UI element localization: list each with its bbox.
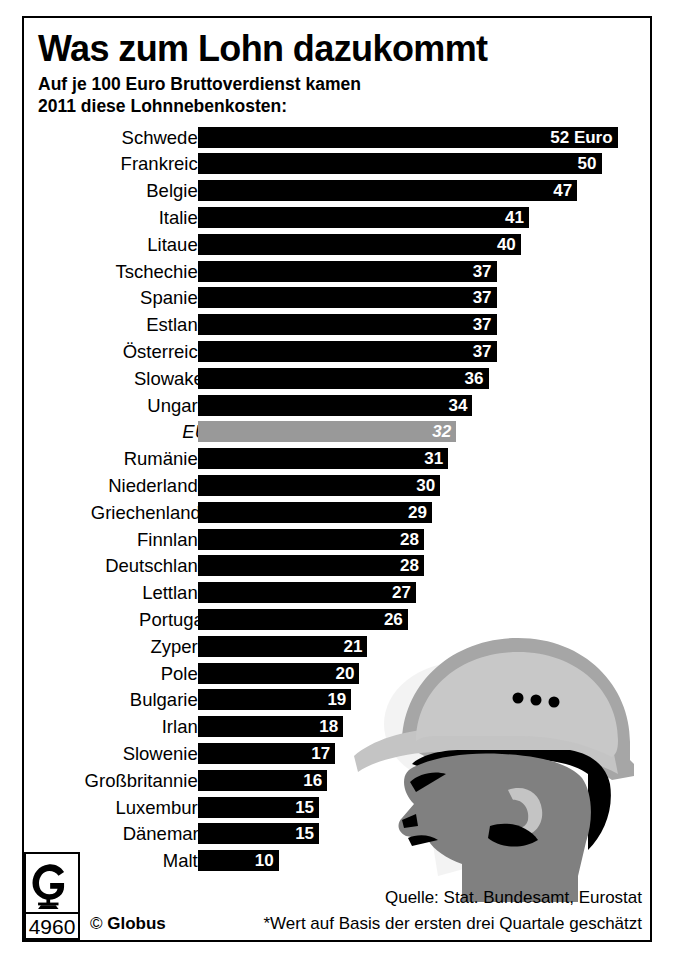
chart-bar: 41 bbox=[198, 207, 529, 228]
chart-bar-value: 29 bbox=[408, 502, 427, 523]
chart-row: Finnland28 bbox=[24, 528, 650, 551]
subtitle: Auf je 100 Euro Bruttoverdienst kamen 20… bbox=[38, 74, 650, 118]
chart-row-label: Deutschland bbox=[105, 554, 208, 577]
chart-bar: 18 bbox=[198, 716, 343, 737]
chart-bar-value: 37 bbox=[473, 261, 492, 282]
copyright-name: Globus bbox=[107, 914, 166, 933]
chart-bar: 37 bbox=[198, 287, 497, 308]
chart-bar-value: 50 bbox=[578, 153, 597, 174]
chart-bar: 21 bbox=[198, 636, 367, 657]
chart-row-label: Großbritannien bbox=[85, 769, 208, 792]
chart-row: Griechenland*29 bbox=[24, 501, 650, 524]
chart-row-label: Schweden bbox=[122, 126, 208, 149]
chart-row: Österreich37 bbox=[24, 340, 650, 363]
chart-bar-value: 31 bbox=[424, 448, 443, 469]
chart-bar-value: 18 bbox=[319, 716, 338, 737]
chart-row: Ungarn34 bbox=[24, 394, 650, 417]
chart-bar: 28 bbox=[198, 529, 424, 550]
chart-bar: 29 bbox=[198, 502, 432, 523]
chart-bar: 50 bbox=[198, 153, 602, 174]
chart-row: Slowenien17 bbox=[24, 742, 650, 765]
chart-row: Estland37 bbox=[24, 313, 650, 336]
chart-bar: 19 bbox=[198, 689, 351, 710]
chart-bar-value: 21 bbox=[344, 636, 363, 657]
globus-g-icon bbox=[26, 854, 78, 914]
footnote-text: *Wert auf Basis der ersten drei Quartale… bbox=[263, 914, 642, 934]
infographic-card: Was zum Lohn dazukommt Auf je 100 Euro B… bbox=[22, 16, 652, 942]
copyright-symbol: © bbox=[90, 914, 103, 933]
chart-bar-value: 37 bbox=[473, 341, 492, 362]
chart-row: Lettland27 bbox=[24, 581, 650, 604]
chart-bar-value: 17 bbox=[311, 743, 330, 764]
chart-row: Litauen40 bbox=[24, 233, 650, 256]
chart-bar: 34 bbox=[198, 395, 472, 416]
chart-row-label: Frankreich bbox=[121, 152, 208, 175]
chart-row: Frankreich50 bbox=[24, 152, 650, 175]
chart-row: Tschechien37 bbox=[24, 260, 650, 283]
chart-bar-value: 28 bbox=[400, 555, 419, 576]
header: Was zum Lohn dazukommt Auf je 100 Euro B… bbox=[24, 18, 650, 118]
chart-row: Bulgarien19 bbox=[24, 688, 650, 711]
chart-bar-value: 20 bbox=[335, 663, 354, 684]
chart-bar-value: 28 bbox=[400, 529, 419, 550]
chart-row: Schweden52 Euro bbox=[24, 126, 650, 149]
chart-row: Portugal26 bbox=[24, 608, 650, 631]
chart-bar-value: 32 bbox=[432, 421, 451, 442]
chart-row: Großbritannien16 bbox=[24, 769, 650, 792]
chart-bar: 27 bbox=[198, 582, 416, 603]
chart-row: Rumänien31 bbox=[24, 447, 650, 470]
chart-bar: 37 bbox=[198, 261, 497, 282]
chart-row: EU32 bbox=[24, 420, 650, 443]
chart-bar: 36 bbox=[198, 368, 489, 389]
chart-bar-value: 37 bbox=[473, 314, 492, 335]
chart-row: Zypern21 bbox=[24, 635, 650, 658]
chart-bar: 37 bbox=[198, 314, 497, 335]
chart-row: Belgien47 bbox=[24, 179, 650, 202]
chart-bar: 32 bbox=[198, 421, 456, 442]
chart-row: Niederlande30 bbox=[24, 474, 650, 497]
chart-bar: 15 bbox=[198, 797, 319, 818]
chart-row: Irland18 bbox=[24, 715, 650, 738]
footer: 4960 © Globus Quelle: Stat. Bundesamt, E… bbox=[24, 836, 650, 940]
source-text: Quelle: Stat. Bundesamt, Eurostat bbox=[385, 888, 642, 908]
chart-row-label: Slowakei bbox=[134, 367, 208, 390]
globus-logo-number: 4960 bbox=[26, 912, 78, 938]
globus-logo: 4960 bbox=[24, 852, 80, 940]
chart-row-label: Luxemburg bbox=[115, 796, 208, 819]
chart-row-label: Österreich bbox=[123, 340, 208, 363]
chart-bar: 26 bbox=[198, 609, 408, 630]
chart-bar-value: 40 bbox=[497, 234, 516, 255]
chart-bar-value: 16 bbox=[303, 770, 322, 791]
chart-row-label: Tschechien bbox=[115, 260, 208, 283]
chart-row: Deutschland28 bbox=[24, 554, 650, 577]
chart-bar: 40 bbox=[198, 234, 521, 255]
chart-bar: 28 bbox=[198, 555, 424, 576]
chart-row-label: Rumänien bbox=[124, 447, 208, 470]
chart-bar-value: 34 bbox=[448, 395, 467, 416]
bar-chart: Schweden52 EuroFrankreich50Belgien47Ital… bbox=[24, 126, 650, 878]
chart-row-label: Slowenien bbox=[123, 742, 208, 765]
copyright: © Globus bbox=[90, 914, 166, 934]
chart-bar-value: 47 bbox=[553, 180, 572, 201]
subtitle-line-2: 2011 diese Lohnnebenkosten: bbox=[38, 96, 650, 118]
chart-bar: 47 bbox=[198, 180, 577, 201]
page-title: Was zum Lohn dazukommt bbox=[38, 30, 650, 68]
chart-bar-value: 30 bbox=[416, 475, 435, 496]
chart-bar-value: 15 bbox=[295, 797, 314, 818]
chart-bar: 37 bbox=[198, 341, 497, 362]
chart-row-label: Griechenland* bbox=[91, 501, 208, 524]
chart-row-label: Niederlande bbox=[108, 474, 208, 497]
chart-bar-value: 37 bbox=[473, 287, 492, 308]
chart-bar-value: 41 bbox=[505, 207, 524, 228]
chart-bar-value: 36 bbox=[465, 368, 484, 389]
chart-bar: 17 bbox=[198, 743, 335, 764]
chart-row: Spanien37 bbox=[24, 286, 650, 309]
chart-row: Luxemburg15 bbox=[24, 796, 650, 819]
chart-row: Slowakei36 bbox=[24, 367, 650, 390]
chart-bar: 31 bbox=[198, 448, 448, 469]
chart-bar-value: 26 bbox=[384, 609, 403, 630]
chart-bar-value: 52 Euro bbox=[550, 127, 612, 148]
chart-bar-value: 19 bbox=[327, 689, 346, 710]
chart-row: Italien41 bbox=[24, 206, 650, 229]
chart-bar: 52 Euro bbox=[198, 127, 618, 148]
